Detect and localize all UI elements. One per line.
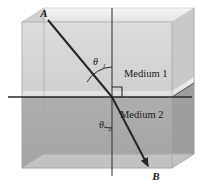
label-point-a: A bbox=[39, 7, 47, 19]
theta-2-symbol: θ bbox=[99, 119, 104, 130]
theta-1-symbol: θ bbox=[93, 56, 98, 67]
label-medium-1: Medium 1 bbox=[124, 68, 167, 79]
refraction-diagram-figure: A B Medium 1 Medium 2 θ 1 θ 2 bbox=[0, 0, 200, 185]
box-3d-shell bbox=[22, 8, 194, 168]
refraction-diagram-canvas: A B Medium 1 Medium 2 θ 1 θ 2 bbox=[0, 0, 200, 185]
box-floor-face bbox=[22, 154, 194, 168]
box-top-face bbox=[22, 8, 194, 22]
label-medium-2: Medium 2 bbox=[120, 109, 163, 120]
theta-1-subscript: 1 bbox=[102, 62, 105, 69]
label-point-b: B bbox=[151, 170, 159, 182]
